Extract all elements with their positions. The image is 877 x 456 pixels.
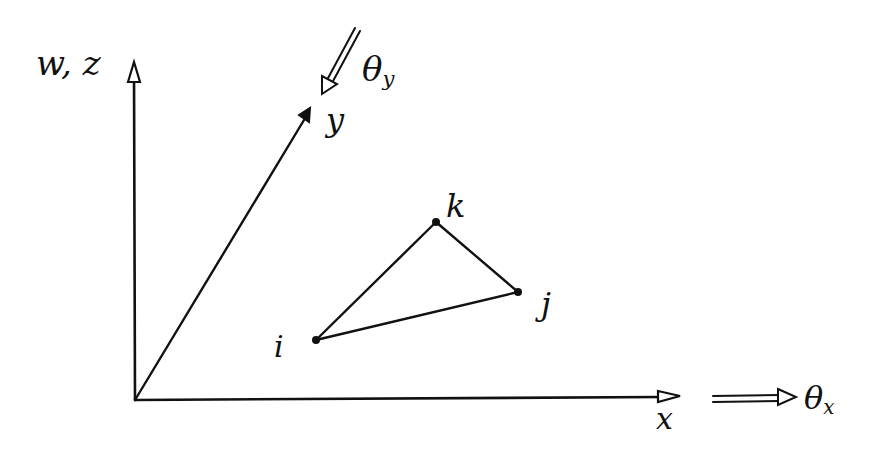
node-i-label: i — [274, 332, 284, 362]
rotation-theta-y-arrow — [322, 28, 360, 94]
axis-y-label: y — [326, 104, 344, 136]
node-k-dot-icon — [432, 218, 440, 226]
axis-x-label: x — [656, 404, 673, 434]
axis-y — [135, 108, 310, 400]
node-k-label: k — [446, 190, 465, 222]
theta-y-subscript: y — [382, 66, 394, 91]
theta-y-symbol: θ — [362, 49, 382, 89]
node-j-label: j — [541, 288, 551, 320]
theta-y-label: θy — [362, 52, 394, 89]
triangle-element — [316, 222, 518, 340]
node-i-dot-icon — [312, 336, 320, 344]
axis-x — [135, 391, 680, 402]
theta-x-arrowhead-icon — [778, 389, 796, 405]
theta-x-symbol: θ — [804, 379, 823, 417]
axis-z-label: w, z — [36, 46, 101, 80]
axis-z — [128, 62, 140, 400]
theta-x-label: θx — [804, 382, 834, 418]
axis-y-arrowhead-icon — [299, 108, 310, 122]
diagram-canvas — [0, 0, 877, 456]
node-j-dot-icon — [514, 288, 522, 296]
rotation-theta-x-arrow — [713, 389, 796, 405]
triangle-nodes — [312, 218, 522, 344]
axis-z-arrowhead-icon — [128, 62, 140, 82]
theta-x-subscript: x — [823, 396, 834, 419]
